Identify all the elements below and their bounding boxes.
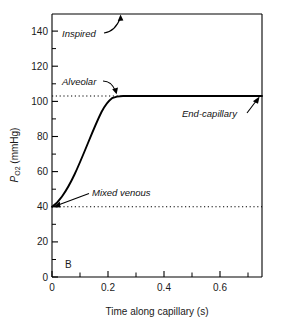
y-tick-label: 140 (31, 26, 48, 37)
annotation-inspired-arrow (104, 18, 121, 34)
annotation-end-capillary: End-capillary (182, 97, 260, 119)
annotation-alveolar-arrowhead (112, 88, 118, 95)
x-tick-label: 0 (49, 282, 55, 293)
annotation-alveolar-label: Alveolar (61, 76, 97, 87)
y-tick-label: 100 (31, 96, 48, 107)
annotation-inspired-arrowhead (118, 15, 124, 22)
annotation-inspired-label: Inspired (62, 28, 97, 39)
x-tick-label: 0.4 (157, 282, 171, 293)
y-axis-title: PO2 (mmHg) (9, 128, 21, 183)
annotation-end-capillary-arrow (247, 101, 257, 114)
annotation-mixed-venous: Mixed venous (53, 187, 151, 207)
y-tick-label: 80 (37, 131, 49, 142)
figure-panel-b: 0 20 40 60 80 100 120 140 0 0.2 0.4 (0, 0, 281, 330)
annotation-inspired: Inspired (62, 15, 123, 40)
annotation-end-capillary-label: End-capillary (182, 108, 238, 119)
y-axis-title-units: (mmHg) (9, 128, 20, 167)
chart-canvas: 0 20 40 60 80 100 120 140 0 0.2 0.4 (0, 0, 281, 330)
y-axis-tick-labels: 0 20 40 60 80 100 120 140 (31, 26, 48, 283)
annotation-mixed-venous-label: Mixed venous (92, 187, 151, 198)
annotation-end-capillary-arrowhead (253, 97, 260, 104)
y-axis-title-subscript: O2 (14, 166, 21, 175)
annotation-alveolar: Alveolar (61, 76, 118, 94)
x-tick-label: 0.2 (101, 282, 115, 293)
panel-label: B (65, 259, 72, 270)
y-tick-label: 20 (37, 236, 49, 247)
y-tick-label: 40 (37, 201, 49, 212)
y-tick-label: 120 (31, 61, 48, 72)
plot-frame (52, 14, 262, 277)
y-tick-label: 60 (37, 166, 49, 177)
x-axis-tick-labels: 0 0.2 0.4 0.6 (49, 282, 227, 293)
y-tick-label: 0 (42, 272, 48, 283)
x-axis-title: Time along capillary (s) (106, 306, 209, 317)
y-axis-minor-ticks (52, 49, 56, 260)
x-tick-label: 0.6 (213, 282, 227, 293)
